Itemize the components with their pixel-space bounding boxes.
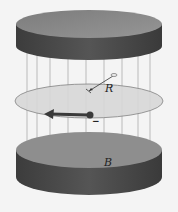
charge-sign: − — [92, 116, 100, 126]
lower-magnet-pole — [16, 132, 162, 195]
magnetic-field-diagram: R − B — [0, 0, 178, 212]
field-label: B — [103, 156, 112, 169]
upper-magnet-pole — [16, 10, 162, 60]
radius-label: R — [104, 82, 113, 95]
